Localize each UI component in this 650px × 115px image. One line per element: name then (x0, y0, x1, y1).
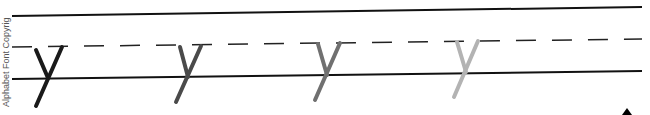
arrow-up-icon (622, 108, 632, 115)
letter-y-3 (315, 43, 340, 100)
letter-y-4 (454, 41, 478, 97)
midline-dashed (12, 39, 642, 47)
top-guide-line (12, 7, 642, 16)
handwriting-practice-sheet (0, 0, 650, 115)
letter-y-1 (36, 47, 62, 106)
letter-y-2 (176, 46, 201, 102)
